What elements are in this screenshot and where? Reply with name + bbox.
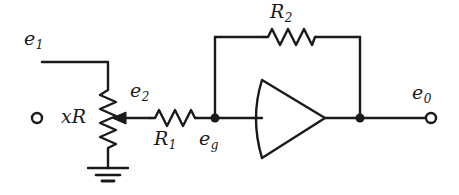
label-r2-symbol: R (270, 0, 284, 22)
label-eg-subscript: g (211, 138, 219, 152)
output-junction-dot (356, 114, 365, 123)
resistor-r2 (264, 29, 316, 45)
label-r1: R1 (154, 129, 176, 148)
resistor-r1 (150, 110, 196, 126)
label-r2: R2 (270, 2, 292, 21)
label-xr-symbol: xR (61, 105, 86, 127)
label-eg-symbol: e (199, 127, 210, 149)
label-r1-symbol: R (154, 127, 168, 149)
circuit-diagram: e1 xR e2 R1 eg R2 e0 (0, 0, 459, 195)
label-e0-symbol: e (412, 81, 423, 103)
schematic-canvas (0, 0, 459, 195)
op-amp-triangle (256, 80, 325, 158)
wiper-arrowhead-icon (112, 112, 126, 124)
wire-input-to-pot (42, 62, 108, 85)
label-e0-subscript: 0 (424, 92, 432, 106)
label-xr: xR (61, 107, 86, 126)
label-e1-symbol: e (24, 27, 35, 49)
label-r2-subscript: 2 (285, 11, 293, 25)
label-r1-subscript: 1 (169, 138, 177, 152)
e0-output-terminal (426, 113, 436, 123)
eg-junction-dot (211, 114, 220, 123)
label-e2: e2 (130, 81, 149, 100)
label-e1-subscript: 1 (36, 38, 44, 52)
label-e0: e0 (412, 83, 431, 102)
label-e1: e1 (24, 29, 43, 48)
label-e2-symbol: e (130, 79, 141, 101)
e1-input-terminal (32, 113, 42, 123)
label-eg: eg (199, 129, 218, 148)
label-e2-subscript: 2 (142, 90, 150, 104)
